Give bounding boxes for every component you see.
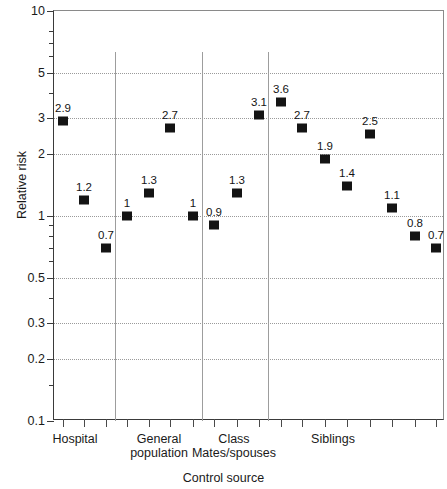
y-axis-label-0.5: 0.5 (28, 271, 45, 284)
data-point (297, 123, 307, 132)
data-point (232, 188, 242, 197)
y-axis-label-0.2: 0.2 (28, 353, 45, 366)
y-axis-tick-0.5 (47, 278, 54, 279)
data-point-label: 1.4 (339, 168, 355, 180)
y-axis-minor-tick (49, 248, 54, 249)
y-axis-minor-tick (49, 31, 54, 32)
y-axis-label-2: 2 (38, 148, 45, 161)
y-axis-tick-0.2 (47, 359, 54, 360)
data-point-label: 0.7 (98, 229, 114, 241)
data-point-label: 0.9 (206, 207, 222, 219)
y-axis-tick-5 (47, 73, 54, 74)
x-axis-tick (170, 419, 171, 427)
data-point (101, 243, 111, 252)
data-point (58, 117, 68, 126)
x-axis-tick (370, 419, 371, 427)
y-axis-label-0.3: 0.3 (28, 317, 45, 330)
data-point-label: 3.1 (251, 97, 267, 109)
x-axis-group-label-hospital: Hospital (52, 432, 97, 446)
data-point (342, 182, 352, 191)
plot-area: 1053210.50.30.20.12.91.20.711.32.710.91.… (53, 10, 444, 420)
x-axis-group-label-class-mates-spouses: Class Mates/spouses (192, 432, 276, 460)
x-axis-group-label-siblings: Siblings (311, 432, 355, 446)
x-axis-group-label-general-population: General population (130, 432, 188, 460)
y-axis-minor-tick (49, 385, 54, 386)
x-axis-tick (392, 419, 393, 427)
data-point (387, 203, 397, 212)
y-axis-tick-1 (47, 216, 54, 217)
group-separator-class-mates-spouses (268, 52, 269, 421)
y-axis-minor-tick (49, 298, 54, 299)
data-point-label: 2.7 (294, 109, 310, 121)
gridline-y-0.3 (54, 323, 443, 324)
data-point (188, 212, 198, 221)
y-axis-tick-0.1 (47, 421, 54, 422)
x-axis-tick (214, 419, 215, 427)
x-axis-tick (193, 419, 194, 427)
gridline-y-0.2 (54, 359, 443, 360)
x-axis-tick (106, 419, 107, 427)
y-axis-label-10: 10 (31, 5, 45, 18)
data-point (165, 123, 175, 132)
y-axis-tick-3 (47, 118, 54, 119)
x-axis-tick (149, 419, 150, 427)
y-axis-tick-2 (47, 154, 54, 155)
data-point-label: 1.3 (141, 174, 157, 186)
data-point-label: 2.7 (162, 109, 178, 121)
relative-risk-scatter-figure: Relative risk 1053210.50.30.20.12.91.20.… (0, 0, 447, 489)
data-point (431, 243, 441, 252)
x-axis-tick (302, 419, 303, 427)
data-point (365, 130, 375, 139)
y-axis-minor-tick (49, 236, 54, 237)
gridline-y-0.5 (54, 278, 443, 279)
y-axis-minor-tick (49, 225, 54, 226)
gridline-y-3 (54, 118, 443, 119)
data-point (410, 231, 420, 240)
group-separator-hospital (115, 52, 116, 421)
gridline-y-5 (54, 73, 443, 74)
y-axis-tick-10 (47, 11, 54, 12)
group-separator-general-population (202, 52, 203, 421)
data-point-label: 1.3 (229, 174, 245, 186)
data-point-label: 1.2 (76, 181, 92, 193)
data-point-label: 2.5 (362, 116, 378, 128)
x-axis-tick (436, 419, 437, 427)
y-axis-title: Relative risk (15, 125, 29, 245)
data-point-label: 1.1 (384, 189, 400, 201)
y-axis-tick-0.3 (47, 323, 54, 324)
data-point (320, 154, 330, 163)
x-axis-tick (281, 419, 282, 427)
x-axis-tick (259, 419, 260, 427)
x-axis-tick (63, 419, 64, 427)
x-axis-tick (347, 419, 348, 427)
y-axis-minor-tick (49, 56, 54, 57)
y-axis-label-1: 1 (38, 210, 45, 223)
data-point-label: 3.6 (273, 83, 289, 95)
data-point-label: 1.9 (317, 140, 333, 152)
data-point-label: 2.9 (55, 103, 71, 115)
data-point (276, 97, 286, 106)
y-axis-label-5: 5 (38, 66, 45, 79)
data-point-label: 0.8 (407, 217, 423, 229)
data-point (122, 212, 132, 221)
x-axis-tick (237, 419, 238, 427)
y-axis-label-0.1: 0.1 (28, 415, 45, 428)
x-axis-tick (325, 419, 326, 427)
x-axis-title: Control source (0, 471, 447, 485)
gridline-y-2 (54, 154, 443, 155)
data-point (79, 195, 89, 204)
data-point-label: 1 (124, 198, 130, 210)
data-point (209, 221, 219, 230)
x-axis-tick (127, 419, 128, 427)
y-axis-minor-tick (49, 261, 54, 262)
x-axis-tick (415, 419, 416, 427)
data-point (254, 111, 264, 120)
y-axis-label-3: 3 (38, 112, 45, 125)
data-point-label: 0.7 (428, 229, 444, 241)
y-axis-minor-tick (49, 93, 54, 94)
x-axis-tick (84, 419, 85, 427)
gridline-y-1 (54, 216, 443, 217)
data-point (144, 188, 154, 197)
data-point-label: 1 (190, 198, 196, 210)
y-axis-minor-tick (49, 43, 54, 44)
